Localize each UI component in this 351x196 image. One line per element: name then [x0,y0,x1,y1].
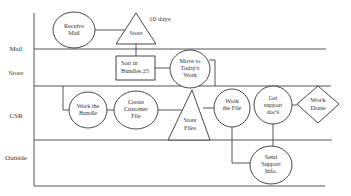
swimlane-flow-diagram: Mail Store CSR Outside Receive Mail Stor… [0,0,351,196]
svg-text:Bundles 25: Bundles 25 [121,67,149,74]
node-create-customer-file[interactable]: Create Customer File [114,91,158,129]
svg-text:Store: Store [129,29,142,36]
svg-text:Receive: Receive [64,22,84,29]
lane-label-csr: CSR [9,112,23,120]
svg-text:the File: the File [223,104,242,111]
svg-text:Info.: Info. [265,167,277,174]
node-work-file[interactable]: Work the File [214,89,250,127]
svg-text:Work: Work [183,71,197,78]
svg-text:Send: Send [265,153,278,160]
svg-text:Done: Done [310,104,325,112]
node-get-support-docs[interactable]: Get support doc's [254,86,292,124]
svg-text:support: support [264,101,283,108]
svg-text:Work: Work [225,97,239,104]
svg-text:Work the: Work the [77,102,100,109]
svg-text:Customer: Customer [124,105,148,112]
svg-text:Create: Create [128,98,144,105]
node-work-bundle[interactable]: Work the Bundle [69,92,107,128]
svg-text:Work: Work [310,96,326,104]
lane-label-store: Store [9,69,24,77]
svg-text:Move to: Move to [180,57,201,64]
svg-text:Files: Files [184,124,197,131]
lane-label-mail: Mail [9,45,22,53]
node-move-todays-work[interactable]: Move to Today's Work [170,50,210,88]
node-sort-bundles[interactable]: Sort in Bundles 25 [116,56,155,80]
svg-text:Today's: Today's [181,64,200,71]
connector-into-work-bundle [63,86,69,110]
svg-text:Store: Store [183,116,196,123]
svg-text:Mail: Mail [68,29,80,36]
node-send-support-info[interactable]: Send Support Info. [250,146,292,184]
connector-workfile-send [232,127,250,163]
svg-text:Bundle: Bundle [79,109,97,116]
svg-text:File: File [131,112,141,119]
svg-text:Support: Support [261,160,281,167]
svg-text:Get: Get [269,94,278,101]
node-receive-mail[interactable]: Receive Mail [53,12,95,48]
store-duration-note: 10 days [149,15,171,23]
svg-text:doc's: doc's [267,108,280,115]
svg-text:Sort in: Sort in [121,59,138,66]
node-store-files[interactable]: Store Files [168,90,210,140]
node-work-done[interactable]: Work Done [297,86,339,123]
lane-label-outside: Outside [5,154,27,162]
